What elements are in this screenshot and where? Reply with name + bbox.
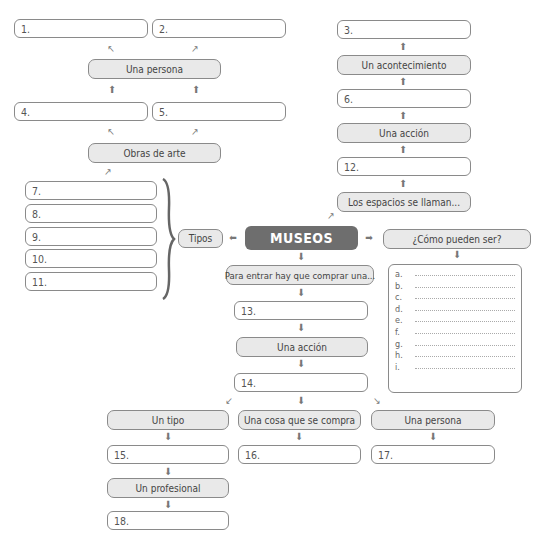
- list-item[interactable]: a.: [395, 269, 515, 281]
- blank-4-label: 4.: [21, 106, 30, 118]
- label-text: Un acontecimiento: [362, 60, 447, 71]
- label-text: Obras de arte: [124, 148, 186, 159]
- list-key: h.: [395, 350, 415, 362]
- label-text: Una acción: [379, 128, 429, 139]
- list-item[interactable]: h.: [395, 350, 515, 362]
- list-como-pueden-ser: a. b. c. d. e. f. g. h. i.: [388, 264, 522, 393]
- blank-9-label: 9.: [32, 231, 41, 243]
- list-item[interactable]: c.: [395, 292, 515, 304]
- label-un-acontecimiento: Un acontecimiento: [337, 55, 471, 75]
- label-text: Un tipo: [152, 415, 184, 426]
- label-text: Tipos: [189, 233, 213, 244]
- list-item[interactable]: e.: [395, 315, 515, 327]
- blank-15-label: 15.: [114, 449, 129, 461]
- label-obras-de-arte: Obras de arte: [88, 143, 221, 163]
- list-key: g.: [395, 339, 415, 351]
- label-una-persona-bottom: Una persona: [371, 410, 495, 430]
- list-item[interactable]: d.: [395, 304, 515, 316]
- arrow-up-left-icon: ↖: [106, 127, 116, 137]
- blank-1[interactable]: 1.: [14, 19, 148, 38]
- list-key: a.: [395, 269, 415, 281]
- blank-6[interactable]: 6.: [337, 89, 471, 108]
- arrow-up-icon: ⬆: [398, 145, 408, 155]
- label-tipos: Tipos: [178, 229, 223, 248]
- blank-12-label: 12.: [344, 161, 359, 173]
- blank-14[interactable]: 14.: [234, 373, 368, 392]
- arrow-down-icon: ⬇: [296, 252, 306, 262]
- blank-9[interactable]: 9.: [25, 227, 157, 246]
- blank-10-label: 10.: [32, 253, 47, 265]
- list-item[interactable]: b.: [395, 281, 515, 293]
- label-text: Para entrar hay que comprar una...: [225, 270, 376, 281]
- list-item[interactable]: f.: [395, 327, 515, 339]
- arrow-left-icon: ⬅: [228, 233, 238, 243]
- label-los-espacios: Los espacios se llaman...: [337, 192, 471, 212]
- blank-2[interactable]: 2.: [152, 19, 286, 38]
- label-una-accion-top: Una acción: [337, 123, 471, 143]
- blank-17[interactable]: 17.: [371, 445, 495, 464]
- arrow-down-icon: ⬇: [452, 250, 462, 260]
- label-para-entrar: Para entrar hay que comprar una...: [226, 265, 374, 285]
- list-item[interactable]: g.: [395, 339, 515, 351]
- arrow-up-right-icon: ↗: [190, 44, 200, 54]
- blank-15[interactable]: 15.: [107, 445, 229, 464]
- label-text: Un profesional: [136, 483, 201, 494]
- arrow-up-right-icon: ↗: [103, 167, 113, 177]
- dotted-line: [415, 292, 515, 299]
- arrow-down-right-icon: ↘: [372, 396, 382, 406]
- blank-3[interactable]: 3.: [337, 20, 471, 39]
- blank-17-label: 17.: [378, 449, 393, 461]
- blank-13[interactable]: 13.: [234, 301, 368, 320]
- blank-11[interactable]: 11.: [25, 272, 157, 291]
- center-node-museos: MUSEOS: [245, 226, 358, 250]
- blank-3-label: 3.: [344, 24, 353, 36]
- arrow-down-icon: ⬇: [294, 432, 304, 442]
- arrow-right-icon: ➡: [364, 233, 374, 243]
- label-text: Una acción: [277, 342, 327, 353]
- arrow-down-left-icon: ↙: [224, 396, 234, 406]
- blank-7[interactable]: 7.: [25, 181, 157, 200]
- arrow-down-icon: ⬇: [296, 396, 306, 406]
- blank-5[interactable]: 5.: [152, 102, 286, 121]
- blank-1-label: 1.: [21, 23, 30, 35]
- arrow-down-icon: ⬇: [296, 323, 306, 333]
- arrow-up-left-icon: ↖: [106, 44, 116, 54]
- arrow-up-icon: ⬆: [398, 42, 408, 52]
- list-item[interactable]: i.: [395, 362, 515, 374]
- arrow-down-icon: ⬇: [163, 500, 173, 510]
- blank-10[interactable]: 10.: [25, 249, 157, 268]
- blank-2-label: 2.: [159, 23, 168, 35]
- blank-12[interactable]: 12.: [337, 157, 471, 176]
- blank-16[interactable]: 16.: [238, 445, 361, 464]
- blank-8[interactable]: 8.: [25, 204, 157, 223]
- list-key: d.: [395, 304, 415, 316]
- arrow-up-right-icon: ↗: [190, 127, 200, 137]
- arrow-up-icon: ⬆: [398, 111, 408, 121]
- blank-16-label: 16.: [245, 449, 260, 461]
- dotted-line: [415, 281, 515, 288]
- blank-7-label: 7.: [32, 185, 41, 197]
- list-key: e.: [395, 315, 415, 327]
- dotted-line: [415, 339, 515, 346]
- arrow-down-icon: ⬇: [428, 432, 438, 442]
- label-text: Una persona: [126, 64, 183, 75]
- blank-11-label: 11.: [32, 276, 47, 288]
- label-una-cosa: Una cosa que se compra: [238, 410, 361, 430]
- list-key: f.: [395, 327, 415, 339]
- blank-5-label: 5.: [159, 106, 168, 118]
- list-key: c.: [395, 292, 415, 304]
- label-una-accion-mid: Una acción: [236, 337, 368, 357]
- arrow-down-icon: ⬇: [296, 359, 306, 369]
- blank-4[interactable]: 4.: [14, 102, 148, 121]
- blank-6-label: 6.: [344, 93, 353, 105]
- blank-18-label: 18.: [114, 515, 129, 527]
- list-key: b.: [395, 281, 415, 293]
- arrow-down-icon: ⬇: [163, 432, 173, 442]
- blank-18[interactable]: 18.: [107, 511, 229, 530]
- dotted-line: [415, 350, 515, 357]
- arrow-up-icon: ⬆: [398, 77, 408, 87]
- label-text: Los espacios se llaman...: [348, 197, 460, 208]
- list-key: i.: [395, 362, 415, 374]
- label-un-profesional: Un profesional: [107, 478, 229, 498]
- label-text: ¿Cómo pueden ser?: [412, 234, 501, 245]
